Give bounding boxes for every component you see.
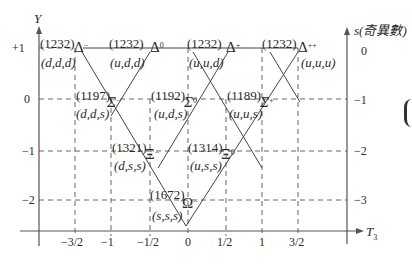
particle-quarks: (u,u,u)	[301, 56, 336, 69]
partial-bracket-mark	[404, 99, 412, 127]
y-tick: 0	[24, 93, 30, 105]
t3-tick: 1/2	[217, 236, 232, 248]
particle-quarks: (u,d,d)	[110, 56, 145, 69]
y-axis-label: Y	[34, 12, 41, 25]
s-tick: 0	[361, 45, 367, 57]
t3-axis-label: T3	[366, 225, 377, 244]
particle-mass: (1192)	[151, 89, 185, 102]
s-tick: −2	[354, 145, 367, 157]
s-axis-arrow	[344, 27, 350, 35]
y-tick: −1	[22, 145, 35, 157]
particle-symbol: Δ+	[226, 40, 240, 55]
particle-quarks: (u,u,s)	[229, 107, 262, 120]
t3-axis-arrow	[356, 228, 364, 234]
y-tick: −2	[22, 194, 35, 206]
particle-mass: (1232)	[187, 37, 222, 50]
particle-quarks: (d,d,d)	[41, 56, 76, 69]
particle-mass: (1321)	[112, 141, 147, 154]
particle-quarks: (u,u,d)	[189, 56, 224, 69]
y-tick: +1	[12, 42, 25, 54]
t3-tick: 0	[185, 236, 191, 248]
particle-quarks: (u,d,s)	[154, 107, 187, 120]
t3-tick: 3/2	[289, 236, 304, 248]
particle-symbol: Δ++	[298, 40, 317, 55]
particle-mass: (1672)	[150, 188, 185, 201]
t3-tick: −1	[101, 236, 114, 248]
particle-quarks: (d,s,s)	[114, 159, 146, 172]
particle-mass: (1314)	[188, 141, 223, 154]
s-tick: −1	[354, 94, 367, 106]
t3-tick: −1/2	[137, 236, 159, 248]
particle-quarks: (d,d,s)	[76, 107, 109, 120]
grid-horizontal	[39, 48, 347, 200]
particle-mass: (1197)	[76, 89, 110, 102]
particle-mass: (1189)	[227, 89, 261, 102]
s-axis-label: s(奇異數)	[354, 24, 407, 37]
t3-tick: 1	[259, 236, 265, 248]
particle-symbol: Ξ−	[145, 147, 159, 162]
t3-tick: −3/2	[61, 236, 83, 248]
particle-symbol: Δ0	[150, 40, 164, 55]
particle-symbol: Δ−	[74, 40, 88, 55]
particle-mass: (1232)	[40, 37, 75, 50]
particle-mass: (1232)	[262, 37, 297, 50]
particle-mass: (1232)	[109, 37, 144, 50]
particle-symbol: Ξ0	[221, 147, 235, 162]
s-tick: −3	[354, 194, 367, 206]
particle-quarks: (s,s,s)	[152, 209, 182, 222]
y-axis-arrow	[36, 26, 42, 34]
particle-symbol: Ω−	[182, 196, 198, 211]
particle-quarks: (u,s,s)	[190, 159, 222, 172]
